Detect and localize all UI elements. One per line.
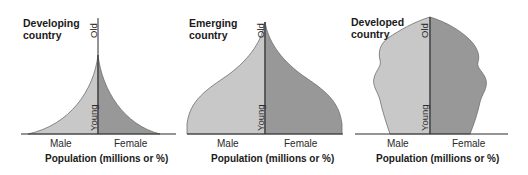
pyramid-developed: Developed country Old Young Male Female … (352, 0, 528, 175)
old-label: Old (419, 23, 430, 38)
old-label: Old (88, 23, 99, 38)
young-label: Young (88, 104, 99, 131)
male-label: Male (387, 138, 409, 149)
x-axis-label: Population (millions or %) (211, 153, 334, 164)
pyramid-title: Emerging country (189, 18, 237, 41)
young-label: Young (255, 104, 266, 131)
x-axis-label: Population (millions or %) (376, 153, 499, 164)
title-line-2: country (351, 29, 404, 41)
pyramid-title: Developed country (351, 17, 404, 40)
old-label: Old (255, 23, 266, 38)
female-label: Female (114, 138, 147, 149)
pyramid-developing: Developing country Old Young Male Female… (0, 0, 176, 175)
male-label: Male (217, 138, 239, 149)
female-label: Female (452, 138, 485, 149)
title-line-2: country (189, 30, 237, 42)
title-line-1: Developed (351, 17, 404, 29)
title-line-2: country (23, 30, 80, 42)
female-label: Female (284, 138, 317, 149)
pyramid-emerging: Emerging country Old Young Male Female P… (176, 0, 352, 175)
title-line-1: Emerging (189, 18, 237, 30)
young-label: Young (419, 104, 430, 131)
male-label: Male (50, 138, 72, 149)
title-line-1: Developing (23, 18, 80, 30)
pyramid-title: Developing country (23, 18, 80, 41)
x-axis-label: Population (millions or %) (45, 153, 168, 164)
